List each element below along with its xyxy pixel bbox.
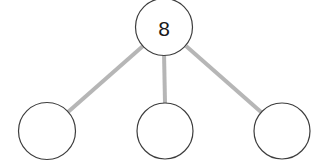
whole-circle-value: 8 [158,17,170,40]
number-bond-canvas: 8 [0,0,328,162]
part-circle-middle[interactable] [137,103,193,159]
connector-whole-to-part-middle [164,52,165,103]
part-circle-left[interactable] [19,103,76,160]
connector-whole-to-part-left [68,46,143,112]
part-circle-right[interactable] [254,103,310,159]
connector-whole-to-part-right [186,46,261,112]
number-bond-diagram: 8 [0,0,328,162]
